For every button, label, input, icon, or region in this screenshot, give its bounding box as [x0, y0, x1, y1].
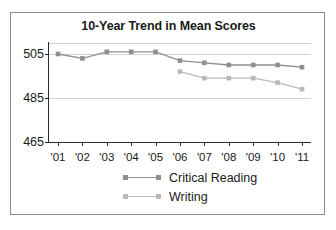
data-point-marker [227, 63, 232, 68]
data-point-marker [275, 80, 280, 85]
chart-legend: Critical ReadingWriting [11, 168, 326, 206]
x-tick-label-11: '11 [295, 151, 309, 163]
legend-item-writing[interactable]: Writing [11, 187, 326, 206]
x-tick-mark-07 [204, 142, 205, 146]
x-tick-mark-04 [131, 142, 132, 146]
chart-figure: 10-Year Trend in Mean Scores 465485505 '… [10, 12, 325, 215]
x-tick-mark-03 [107, 142, 108, 146]
legend-label: Critical Reading [169, 171, 257, 185]
series-layer [49, 43, 311, 142]
x-tick-mark-09 [253, 142, 254, 146]
y-tick-label-465: 465 [23, 135, 44, 149]
chart-title: 10-Year Trend in Mean Scores [11, 19, 326, 33]
y-tick-label-485: 485 [23, 91, 44, 105]
x-tick-label-03: '03 [99, 151, 114, 163]
data-point-marker [202, 61, 207, 66]
x-tick-mark-01 [58, 142, 59, 146]
data-point-marker [227, 76, 232, 81]
x-tick-label-09: '09 [246, 151, 261, 163]
data-point-marker [178, 69, 183, 74]
data-point-marker [56, 52, 61, 57]
y-tick-mark-465 [45, 142, 49, 143]
data-point-marker [300, 87, 305, 92]
x-tick-label-01: '01 [51, 151, 66, 163]
x-tick-label-04: '04 [124, 151, 139, 163]
x-tick-mark-08 [229, 142, 230, 146]
x-tick-label-02: '02 [75, 151, 90, 163]
x-tick-label-06: '06 [173, 151, 188, 163]
x-tick-mark-10 [278, 142, 279, 146]
x-tick-mark-02 [82, 142, 83, 146]
data-point-marker [105, 50, 110, 55]
data-point-marker [129, 50, 134, 55]
data-point-marker [251, 63, 256, 68]
data-point-marker [275, 63, 280, 68]
data-point-marker [178, 58, 183, 63]
data-point-marker [80, 56, 85, 61]
plot-area: 465485505 '01'02'03'04'05'06'07'08'09'10… [49, 43, 311, 142]
x-tick-mark-06 [180, 142, 181, 146]
x-tick-label-05: '05 [148, 151, 163, 163]
x-tick-label-07: '07 [197, 151, 212, 163]
data-point-marker [300, 65, 305, 70]
x-tick-mark-11 [302, 142, 303, 146]
y-tick-label-505: 505 [23, 47, 44, 61]
series-line-writing [180, 72, 302, 90]
x-tick-label-08: '08 [221, 151, 236, 163]
data-point-marker [251, 76, 256, 81]
legend-swatch-icon [123, 192, 161, 202]
data-point-marker [202, 76, 207, 81]
legend-label: Writing [169, 190, 208, 204]
x-tick-mark-05 [156, 142, 157, 146]
x-tick-label-10: '10 [270, 151, 285, 163]
legend-swatch-icon [123, 173, 161, 183]
data-point-marker [153, 50, 158, 55]
legend-item-critical-reading[interactable]: Critical Reading [11, 168, 326, 187]
